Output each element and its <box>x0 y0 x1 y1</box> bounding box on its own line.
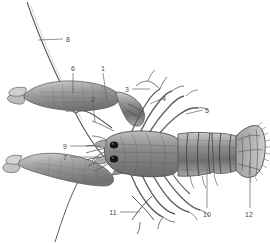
label-2: 2 <box>91 96 95 103</box>
label-7: 7 <box>63 154 67 161</box>
label-9: 9 <box>63 143 67 150</box>
label-1: 1 <box>101 65 105 72</box>
lobster-illustration: 8 6 1 2 3 4 5 9 7 11 10 12 <box>0 0 270 243</box>
label-12: 12 <box>245 211 253 218</box>
label-8: 8 <box>66 36 70 43</box>
label-10: 10 <box>203 211 211 218</box>
label-6: 6 <box>71 65 75 72</box>
label-3: 3 <box>125 86 129 93</box>
lobster-anatomy-figure: 8 6 1 2 3 4 5 9 7 11 10 12 <box>0 0 270 243</box>
label-4: 4 <box>162 95 166 102</box>
label-11: 11 <box>109 209 116 216</box>
label-5: 5 <box>205 107 209 114</box>
